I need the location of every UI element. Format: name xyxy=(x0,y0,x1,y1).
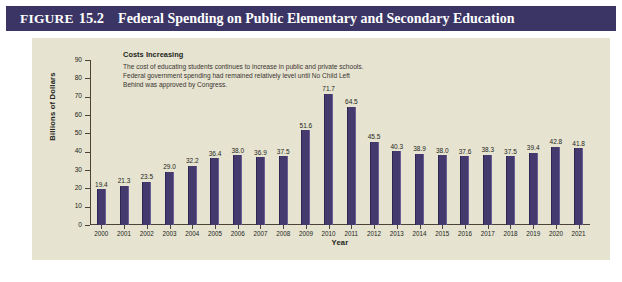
y-axis-title: Billions of Dollars xyxy=(48,57,57,157)
x-axis-tick xyxy=(374,225,375,229)
bar-value-label: 71.7 xyxy=(317,85,340,92)
bar[interactable]: 37.5 xyxy=(279,156,288,225)
x-axis-label: 2016 xyxy=(454,230,477,237)
annotation-heading: Costs Increasing xyxy=(123,50,453,59)
bar-group[interactable]: 38.02015 xyxy=(431,155,454,225)
bar-value-label: 51.6 xyxy=(295,122,318,129)
y-axis-tick-label: 20 xyxy=(75,184,82,191)
bar-value-label: 41.8 xyxy=(567,140,590,147)
bar-group[interactable]: 23.52002 xyxy=(135,182,158,225)
bar-value-label: 37.5 xyxy=(272,148,295,155)
y-axis-tick-label: 50 xyxy=(75,129,82,136)
bar-value-label: 19.4 xyxy=(90,181,113,188)
x-axis-label: 2002 xyxy=(135,230,158,237)
x-axis-label: 2009 xyxy=(295,230,318,237)
x-axis-tick xyxy=(465,225,466,229)
bar[interactable]: 21.3 xyxy=(120,186,129,225)
chart-panel: Costs Increasing The cost of educating s… xyxy=(32,38,610,260)
bar-group[interactable]: 37.62016 xyxy=(454,156,477,225)
bar[interactable]: 36.9 xyxy=(256,157,265,225)
bar-value-label: 29.0 xyxy=(158,163,181,170)
y-axis-tick-label: 10 xyxy=(75,202,82,209)
bar-group[interactable]: 21.32001 xyxy=(113,186,136,225)
bar[interactable]: 51.6 xyxy=(301,130,310,225)
figure-number: 15.2 xyxy=(79,10,104,27)
bar[interactable]: 38.0 xyxy=(233,155,242,225)
bar-value-label: 37.6 xyxy=(454,148,477,155)
bar-value-label: 36.4 xyxy=(204,150,227,157)
bar-group[interactable]: 64.52011 xyxy=(340,107,363,225)
bar[interactable]: 38.0 xyxy=(438,155,447,225)
bar[interactable]: 71.7 xyxy=(324,94,333,225)
bar-value-label: 36.9 xyxy=(249,149,272,156)
bar-group[interactable]: 32.22004 xyxy=(181,166,204,225)
bar[interactable]: 64.5 xyxy=(347,107,356,225)
x-axis-tick xyxy=(556,225,557,229)
x-axis-label: 2010 xyxy=(317,230,340,237)
bar[interactable]: 38.3 xyxy=(483,155,492,225)
y-axis-tick: 60 xyxy=(85,115,90,116)
x-axis-tick xyxy=(397,225,398,229)
bar-group[interactable]: 51.62009 xyxy=(295,130,318,225)
bar-group[interactable]: 38.92014 xyxy=(408,154,431,225)
x-axis-tick xyxy=(351,225,352,229)
x-axis-label: 2001 xyxy=(113,230,136,237)
y-axis-tick-label: 0 xyxy=(78,221,82,228)
y-axis-tick-label: 90 xyxy=(75,56,82,63)
bar-value-label: 45.5 xyxy=(363,133,386,140)
bar[interactable]: 38.9 xyxy=(415,154,424,225)
x-axis-label: 2012 xyxy=(363,230,386,237)
y-axis-tick: 0 xyxy=(85,225,90,226)
bar[interactable]: 41.8 xyxy=(574,148,583,225)
bar[interactable]: 42.8 xyxy=(551,147,560,225)
bar-group[interactable]: 38.02006 xyxy=(226,155,249,225)
x-axis-tick xyxy=(488,225,489,229)
bar-group[interactable]: 40.32013 xyxy=(385,151,408,225)
bar-group[interactable]: 29.02003 xyxy=(158,172,181,225)
y-axis-tick: 40 xyxy=(85,152,90,153)
x-axis-tick xyxy=(124,225,125,229)
x-axis-tick xyxy=(579,225,580,229)
x-axis-tick xyxy=(510,225,511,229)
bar-group[interactable]: 71.72010 xyxy=(317,94,340,225)
y-axis-tick-label: 80 xyxy=(75,74,82,81)
x-axis-label: 2011 xyxy=(340,230,363,237)
bar[interactable]: 37.6 xyxy=(460,156,469,225)
bar-group[interactable]: 42.82020 xyxy=(545,147,568,225)
y-axis-tick: 50 xyxy=(85,133,90,134)
bar[interactable]: 45.5 xyxy=(370,142,379,225)
x-axis-tick xyxy=(442,225,443,229)
page-title: Federal Spending on Public Elementary an… xyxy=(118,11,514,27)
y-axis-tick-label: 30 xyxy=(75,166,82,173)
bar[interactable]: 19.4 xyxy=(97,189,106,225)
bar-group[interactable]: 41.82021 xyxy=(567,148,590,225)
bar-group[interactable]: 19.42000 xyxy=(90,189,113,225)
bar-value-label: 39.4 xyxy=(522,144,545,151)
figure-container: Figure 15.2 Federal Spending on Public E… xyxy=(6,6,616,268)
bar[interactable]: 37.5 xyxy=(506,156,515,225)
bar-group[interactable]: 36.92007 xyxy=(249,157,272,225)
bar[interactable]: 39.4 xyxy=(529,153,538,225)
bar-value-label: 38.0 xyxy=(431,147,454,154)
bar-group[interactable]: 37.52008 xyxy=(272,156,295,225)
bar-value-label: 21.3 xyxy=(113,177,136,184)
y-axis-tick-label: 70 xyxy=(75,92,82,99)
bar[interactable]: 36.4 xyxy=(210,158,219,225)
y-axis-tick: 90 xyxy=(85,60,90,61)
bar-group[interactable]: 37.52018 xyxy=(499,156,522,225)
bar-group[interactable]: 36.42005 xyxy=(204,158,227,225)
bar[interactable]: 32.2 xyxy=(188,166,197,225)
bar[interactable]: 29.0 xyxy=(165,172,174,225)
bar[interactable]: 40.3 xyxy=(392,151,401,225)
bar[interactable]: 23.5 xyxy=(142,182,151,225)
bar-value-label: 40.3 xyxy=(385,143,408,150)
x-axis-label: 2018 xyxy=(499,230,522,237)
bar-group[interactable]: 39.42019 xyxy=(522,153,545,225)
x-axis-label: 2021 xyxy=(567,230,590,237)
y-axis-tick-label: 40 xyxy=(75,147,82,154)
bar-group[interactable]: 45.52012 xyxy=(363,142,386,225)
bar-value-label: 32.2 xyxy=(181,157,204,164)
x-axis-label: 2019 xyxy=(522,230,545,237)
x-axis-label: 2014 xyxy=(408,230,431,237)
bar-group[interactable]: 38.32017 xyxy=(476,155,499,225)
